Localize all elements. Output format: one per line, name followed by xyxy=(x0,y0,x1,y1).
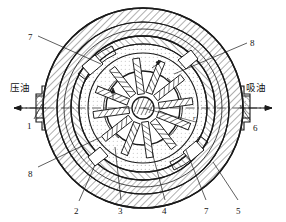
callout-7-bottom: 7 xyxy=(204,207,209,216)
callout-2: 2 xyxy=(74,207,79,216)
callout-8-top: 8 xyxy=(250,39,255,48)
callout-8-left: 8 xyxy=(28,170,33,179)
callout-4: 4 xyxy=(162,207,167,216)
callout-3: 3 xyxy=(118,207,123,216)
suction-oil-label: 吸油 xyxy=(246,83,267,92)
pressure-oil-label: 压油 xyxy=(10,83,31,92)
callout-1: 1 xyxy=(27,122,32,131)
radius-label: r xyxy=(193,114,196,123)
vane-pump-cross-section-drawing xyxy=(0,0,286,222)
callout-7-top: 7 xyxy=(28,33,33,42)
callout-6: 6 xyxy=(253,124,258,133)
figure-canvas: 压油 吸油 7 8 1 6 8 2 3 4 7 5 r xyxy=(0,0,286,222)
callout-5: 5 xyxy=(236,207,241,216)
